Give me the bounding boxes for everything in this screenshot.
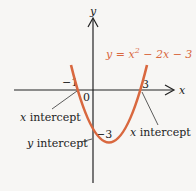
annotation-right-x-intercept: x intercept: [130, 126, 191, 139]
annotation-left-x-intercept: x intercept: [20, 111, 81, 124]
y-axis-label: y: [89, 5, 97, 18]
annotation-y-intercept: y intercept: [26, 137, 88, 150]
equation-label: y = x2 − 2x − 3: [105, 46, 192, 61]
leader-line-right-x-intercept: [142, 92, 158, 125]
origin-label: 0: [83, 91, 90, 104]
leader-line-left-x-intercept: [52, 91, 77, 109]
parabola-chart: x y −1 3 0 −3 y = x2 − 2x − 3 x intercep…: [0, 0, 196, 191]
tick-label-neg3: −3: [96, 128, 112, 141]
axes: [14, 18, 174, 183]
x-axis-label: x: [179, 84, 186, 97]
